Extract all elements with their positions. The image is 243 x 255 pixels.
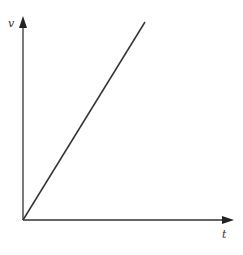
x-axis-label: t: [222, 228, 227, 241]
x-axis-arrowhead: [222, 216, 234, 224]
series-layer: [23, 22, 145, 220]
velocity-time-graph: v t: [0, 0, 243, 255]
series-line-0: [23, 22, 145, 220]
y-axis-arrowhead: [19, 16, 27, 28]
y-axis-label: v: [8, 17, 15, 30]
